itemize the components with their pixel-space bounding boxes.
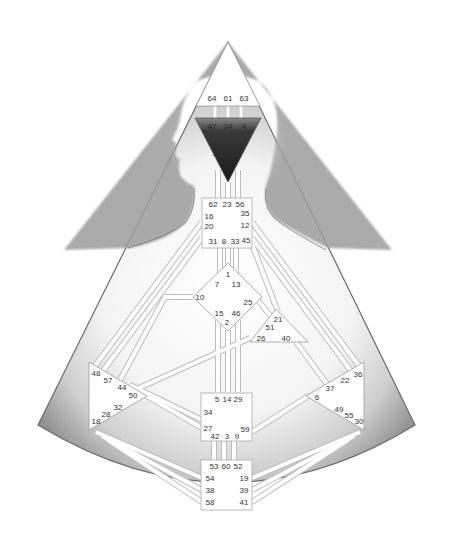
- root-center[interactable]: 53 60 52 54 19 38 39 58 41: [201, 460, 252, 510]
- gate-54: 54: [206, 474, 215, 483]
- gate-64: 64: [208, 94, 217, 103]
- gate-34: 34: [204, 408, 213, 417]
- gate-7: 7: [215, 280, 220, 289]
- bodygraph: 64 61 63 47 24 4 17 62 23 56 16 35 20 12…: [0, 0, 456, 553]
- gate-22: 22: [341, 376, 350, 385]
- gate-8: 8: [222, 237, 227, 246]
- gate-62: 62: [209, 200, 218, 209]
- gate-9: 9: [235, 432, 240, 441]
- sacral-center[interactable]: 5 14 29 34 27 59 42 3 9: [201, 393, 252, 441]
- gate-49: 49: [335, 405, 344, 414]
- gate-59: 59: [241, 425, 250, 434]
- gate-58: 58: [206, 498, 215, 507]
- gate-30: 30: [355, 417, 364, 426]
- gate-10: 10: [196, 293, 205, 302]
- gate-51: 51: [266, 323, 275, 332]
- gate-60: 60: [222, 462, 231, 471]
- gate-56: 56: [236, 200, 245, 209]
- gate-57: 57: [104, 376, 113, 385]
- gate-38: 38: [206, 486, 215, 495]
- gate-61: 61: [224, 94, 233, 103]
- gate-52: 52: [234, 462, 243, 471]
- gate-12: 12: [241, 221, 250, 230]
- gate-33: 33: [231, 237, 240, 246]
- gate-15: 15: [215, 309, 224, 318]
- gate-6: 6: [315, 393, 320, 402]
- gate-36: 36: [354, 370, 363, 379]
- gate-26: 26: [257, 334, 266, 343]
- throat-center[interactable]: 62 23 56 16 35 20 12 31 8 33 45: [202, 198, 252, 248]
- gate-1: 1: [226, 270, 231, 279]
- gate-28: 28: [102, 410, 111, 419]
- gate-2: 2: [225, 318, 230, 327]
- gate-55: 55: [345, 411, 354, 420]
- gate-24: 24: [224, 122, 233, 131]
- gate-37: 37: [326, 384, 335, 393]
- gate-4: 4: [242, 122, 247, 131]
- gate-48: 48: [92, 369, 101, 378]
- gate-17: 17: [213, 149, 222, 158]
- gate-44: 44: [118, 383, 127, 392]
- gate-35: 35: [241, 209, 250, 218]
- gate-19: 19: [240, 474, 249, 483]
- gate-42: 42: [211, 432, 220, 441]
- gate-32: 32: [114, 403, 123, 412]
- gate-63: 63: [240, 94, 249, 103]
- gate-5: 5: [215, 395, 220, 404]
- gate-25: 25: [244, 298, 253, 307]
- gate-13: 13: [232, 280, 241, 289]
- gate-39: 39: [240, 486, 249, 495]
- gate-53: 53: [210, 462, 219, 471]
- gate-47: 47: [208, 122, 217, 131]
- gate-16: 16: [205, 212, 214, 221]
- gate-14: 14: [223, 395, 232, 404]
- gate-46: 46: [232, 309, 241, 318]
- gate-50: 50: [129, 391, 138, 400]
- gate-21: 21: [274, 315, 283, 324]
- gate-31: 31: [209, 237, 218, 246]
- gate-3: 3: [225, 432, 230, 441]
- gate-45: 45: [242, 236, 251, 245]
- gate-23: 23: [223, 200, 232, 209]
- gate-18: 18: [92, 417, 101, 426]
- gate-29: 29: [234, 395, 243, 404]
- gate-20: 20: [205, 222, 214, 231]
- gate-41: 41: [240, 498, 249, 507]
- gate-40: 40: [282, 334, 291, 343]
